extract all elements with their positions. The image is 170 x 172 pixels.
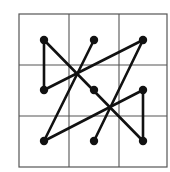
dot-r1c3 (139, 36, 147, 44)
dot-r1c2 (90, 36, 98, 44)
dot-r3c2 (90, 137, 98, 145)
dot-r3c1 (40, 137, 48, 145)
dot-r3c3 (139, 137, 147, 145)
dot-r1c1 (40, 36, 48, 44)
dot-r2c2 (90, 86, 98, 94)
dot-r2c1 (40, 86, 48, 94)
dot-r2c3 (139, 86, 147, 94)
diagram-canvas (0, 0, 170, 172)
grid-path-diagram (0, 0, 170, 172)
